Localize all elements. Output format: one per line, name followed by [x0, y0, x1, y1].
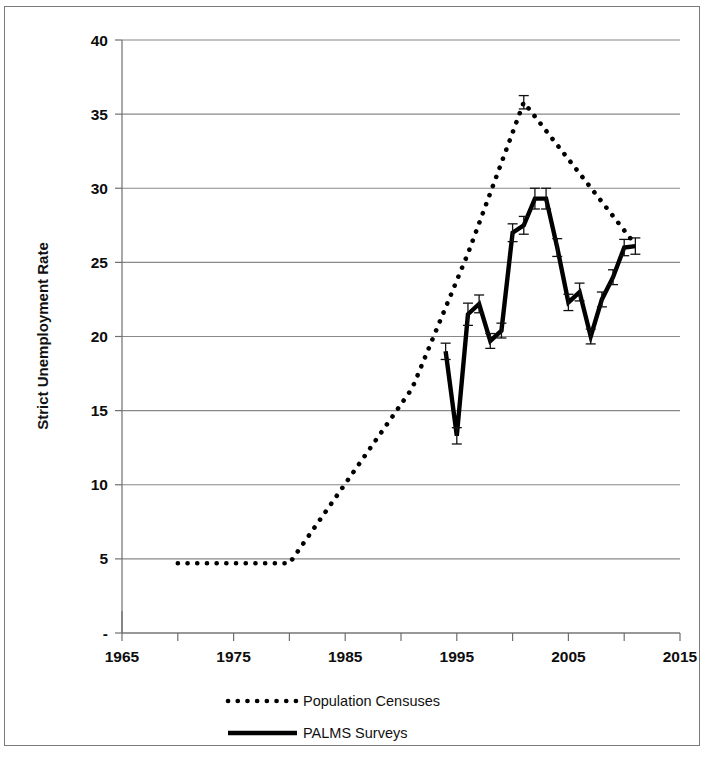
- y-tick-label-35: 35: [91, 106, 109, 123]
- y-tick-labels: -510152025303540: [91, 32, 109, 642]
- y-tick-label-40: 40: [91, 32, 108, 49]
- x-tick-label-1965: 1965: [105, 648, 140, 665]
- error-bar: [441, 343, 451, 359]
- y-tick-label-20: 20: [91, 328, 108, 345]
- y-tick-label-30: 30: [91, 180, 108, 197]
- y-tick-label-0: -: [103, 625, 108, 642]
- y-tick-label-25: 25: [91, 254, 109, 271]
- chart-legend: Population Censuses PALMS Surveys: [228, 693, 440, 741]
- series-palms-surveys: [446, 199, 636, 436]
- legend-label-palms-surveys: PALMS Surveys: [303, 725, 408, 741]
- x-tick-labels: 196519751985199520052015: [105, 648, 698, 665]
- y-axis-title: Strict Unemployment Rate: [34, 242, 51, 430]
- x-axis: [122, 611, 680, 641]
- chart-figure: -510152025303540 19651975198519952005201…: [0, 0, 706, 757]
- x-tick-label-2015: 2015: [663, 648, 698, 665]
- legend-label-population-censuses: Population Censuses: [303, 693, 440, 709]
- gridlines: [122, 40, 680, 633]
- data-series-layer: [178, 102, 636, 563]
- x-tick-label-1975: 1975: [216, 648, 251, 665]
- y-axis: [115, 40, 122, 633]
- y-tick-label-5: 5: [99, 550, 108, 567]
- x-tick-label-1995: 1995: [440, 648, 475, 665]
- error-bar: [463, 303, 473, 325]
- y-tick-label-15: 15: [91, 402, 109, 419]
- error-bars-layer: [441, 96, 641, 444]
- x-tick-label-1985: 1985: [328, 648, 363, 665]
- x-tick-label-2005: 2005: [551, 648, 586, 665]
- y-tick-label-10: 10: [91, 476, 108, 493]
- series-population-censuses: [178, 102, 636, 563]
- line-chart: -510152025303540 19651975198519952005201…: [0, 0, 706, 757]
- error-bar: [452, 428, 462, 444]
